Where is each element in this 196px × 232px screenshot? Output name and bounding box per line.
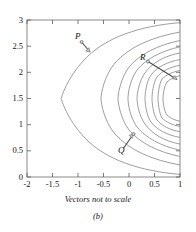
contour-curve-4 bbox=[128, 47, 180, 150]
xtick-label-0: -2 bbox=[13, 180, 41, 189]
ytick-label-6: 3 bbox=[2, 16, 23, 25]
ytick-label-1: 0.5 bbox=[2, 146, 23, 155]
point-label-P: P bbox=[75, 32, 81, 41]
vector-arrow-Q bbox=[124, 133, 136, 149]
contour-curve-3 bbox=[118, 41, 180, 157]
figure-caption: Vectors not to scale bbox=[0, 194, 196, 204]
xtick-label-1: -1.5 bbox=[39, 180, 67, 189]
contour-curve-6 bbox=[145, 60, 180, 138]
axis-ticks bbox=[27, 20, 180, 177]
xtick-label-3: -0.5 bbox=[90, 180, 118, 189]
vector-arrow-R bbox=[147, 60, 178, 80]
panel-label: (b) bbox=[0, 211, 196, 221]
plot-frame bbox=[27, 20, 180, 177]
xtick-label-6: 1 bbox=[166, 180, 194, 189]
xtick-label-5: 0.5 bbox=[141, 180, 169, 189]
ytick-label-4: 2 bbox=[2, 68, 23, 77]
vector-arrow-P bbox=[80, 41, 90, 53]
xtick-label-4: 0 bbox=[115, 180, 143, 189]
point-label-R: R bbox=[140, 53, 146, 62]
ytick-label-5: 2.5 bbox=[2, 42, 23, 51]
ytick-label-3: 1.5 bbox=[2, 94, 23, 103]
figure-panel-b: 0 0.5 1 1.5 2 2.5 3 -2 -1.5 -1 -0.5 0 0.… bbox=[0, 0, 196, 232]
xtick-label-2: -1 bbox=[64, 180, 92, 189]
ytick-label-2: 1 bbox=[2, 120, 23, 129]
point-label-Q: Q bbox=[118, 146, 125, 155]
